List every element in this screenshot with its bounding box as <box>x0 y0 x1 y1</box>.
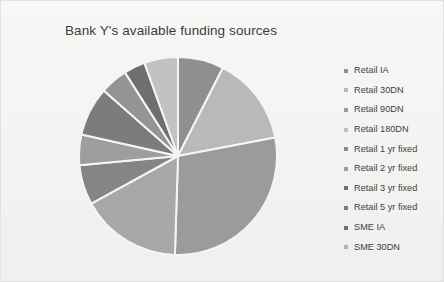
legend-item-label: Retail 180DN <box>354 125 409 134</box>
pie-chart-svg <box>78 56 278 256</box>
legend-marker-icon <box>344 245 348 249</box>
legend-marker-icon <box>344 206 348 210</box>
legend-item[interactable]: Retail 5 yr fixed <box>344 198 440 218</box>
legend-item[interactable]: SME 30DN <box>344 237 440 257</box>
legend-item[interactable]: Retail 180DN <box>344 120 440 140</box>
pie-slice[interactable] <box>175 137 277 255</box>
legend-item[interactable]: Retail 90DN <box>344 100 440 120</box>
legend-item[interactable]: Retail 2 yr fixed <box>344 159 440 179</box>
legend-marker-icon <box>344 226 348 230</box>
chart-title: Bank Y's available funding sources <box>1 23 341 38</box>
legend-item[interactable]: Retail 3 yr fixed <box>344 179 440 199</box>
legend-item-label: Retail 30DN <box>354 86 404 95</box>
legend-item-label: Retail IA <box>354 66 389 75</box>
chart-legend: Retail IARetail 30DNRetail 90DNRetail 18… <box>344 61 440 257</box>
legend-item-label: Retail 3 yr fixed <box>354 184 417 193</box>
legend-item[interactable]: Retail 1 yr fixed <box>344 139 440 159</box>
chart-frame: Bank Y's available funding sources Retai… <box>0 0 444 282</box>
legend-item-label: SME IA <box>354 223 385 232</box>
legend-item-label: Retail 5 yr fixed <box>354 203 417 212</box>
legend-marker-icon <box>344 128 348 132</box>
legend-marker-icon <box>344 108 348 112</box>
legend-item-label: Retail 1 yr fixed <box>354 145 417 154</box>
legend-item[interactable]: SME IA <box>344 218 440 238</box>
pie-slices <box>79 57 277 255</box>
legend-marker-icon <box>344 88 348 92</box>
legend-item[interactable]: Retail IA <box>344 61 440 81</box>
legend-item-label: SME 30DN <box>354 243 400 252</box>
pie-chart <box>78 56 278 256</box>
legend-marker-icon <box>344 186 348 190</box>
legend-item-label: Retail 90DN <box>354 105 404 114</box>
legend-marker-icon <box>344 147 348 151</box>
legend-marker-icon <box>344 167 348 171</box>
legend-marker-icon <box>344 69 348 73</box>
legend-item[interactable]: Retail 30DN <box>344 81 440 101</box>
legend-item-label: Retail 2 yr fixed <box>354 164 417 173</box>
